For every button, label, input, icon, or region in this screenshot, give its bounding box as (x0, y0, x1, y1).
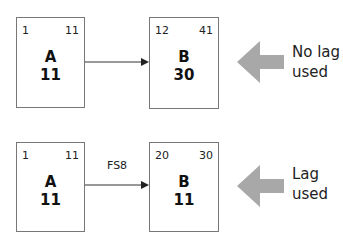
activity-duration: 11 (150, 191, 218, 209)
activity-name: A (17, 48, 84, 66)
activity-duration: 11 (17, 66, 84, 84)
early-finish: 11 (65, 24, 79, 37)
caption: Lag used (292, 164, 328, 204)
activity-name: A (17, 173, 84, 191)
activity-a-box: 1 11 A 11 (16, 17, 85, 108)
activity-duration: 11 (17, 191, 84, 209)
activity-duration: 30 (150, 66, 218, 84)
dependency-arrow (85, 179, 149, 191)
early-finish: 11 (65, 149, 79, 162)
early-finish: 30 (199, 149, 213, 162)
left-pointer-arrow-icon (237, 165, 285, 207)
activity-name: B (150, 48, 218, 66)
early-start: 12 (155, 24, 169, 37)
left-pointer-arrow-icon (237, 41, 285, 83)
activity-b-box: 12 41 B 30 (149, 17, 219, 109)
caption: No lag used (292, 42, 340, 82)
early-start: 1 (22, 149, 29, 162)
early-start: 1 (22, 24, 29, 37)
activity-name: B (150, 173, 218, 191)
early-start: 20 (155, 149, 169, 162)
activity-b-box: 20 30 B 11 (149, 142, 219, 232)
activity-a-box: 1 11 A 11 (16, 142, 85, 232)
dependency-arrow (85, 56, 149, 68)
relation-label: FS8 (107, 159, 127, 172)
early-finish: 41 (199, 24, 213, 37)
